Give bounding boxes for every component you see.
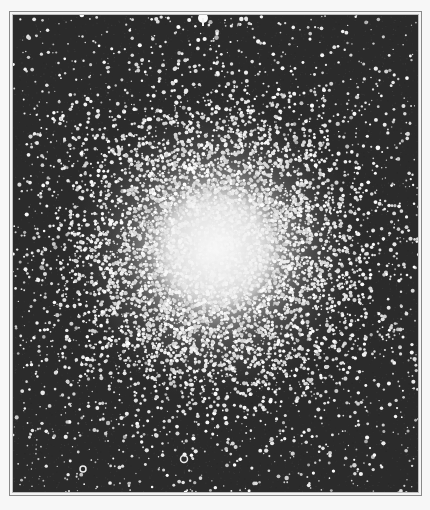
star-cluster-photo (12, 14, 419, 493)
page (0, 0, 430, 510)
star-field-canvas (13, 15, 419, 493)
